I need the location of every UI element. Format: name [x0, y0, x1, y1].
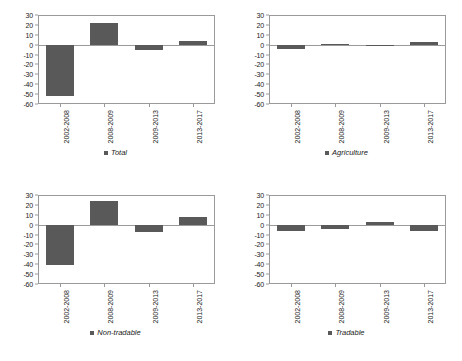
- x-axis-tick-mark: [149, 104, 150, 107]
- y-axis-tick-label: -50: [254, 91, 264, 98]
- y-axis-tick-label: -30: [23, 71, 33, 78]
- y-axis-tick-label: -20: [23, 241, 33, 248]
- plot-area: [269, 15, 446, 104]
- y-axis-tick-label: 0: [260, 41, 264, 48]
- x-axis-tick-mark: [193, 104, 194, 107]
- y-axis-tick-label: 20: [257, 201, 264, 208]
- x-axis-tick-label: 2013-2017: [196, 110, 203, 143]
- y-axis-tick-label: -40: [23, 81, 33, 88]
- legend-entry: Agriculture: [325, 148, 368, 158]
- multi-panel-bar-chart-figure: 3020100-10-20-30-40-50-602002-20082008-2…: [0, 0, 462, 361]
- bar: [277, 225, 305, 231]
- plot-area: [38, 195, 215, 284]
- legend: Agriculture: [231, 148, 462, 158]
- x-axis-tick-label: 2008-2009: [107, 290, 114, 323]
- y-axis-tick-label: 10: [26, 31, 33, 38]
- x-axis-tick-label: 2013-2017: [427, 290, 434, 323]
- x-axis-tick-mark: [60, 104, 61, 107]
- bar: [179, 41, 207, 45]
- plot-frame: [269, 15, 446, 104]
- bar: [410, 42, 438, 45]
- x-axis-tick-label: 2002-2008: [63, 290, 70, 323]
- x-axis: 2002-20082008-20092009-20132013-2017: [38, 284, 215, 330]
- x-axis-tick-label: 2008-2009: [338, 290, 345, 323]
- x-axis-tick-mark: [193, 284, 194, 287]
- y-axis-tick-label: 10: [26, 211, 33, 218]
- x-axis-tick-label: 2009-2013: [152, 290, 159, 323]
- x-axis-tick-mark: [424, 284, 425, 287]
- legend-label: Agriculture: [332, 148, 368, 158]
- x-axis-tick-label: 2013-2017: [196, 290, 203, 323]
- legend: Total: [0, 148, 231, 158]
- chart-panel-3: 3020100-10-20-30-40-50-602002-20082008-2…: [0, 180, 231, 360]
- x-axis-tick-label: 2008-2009: [107, 110, 114, 143]
- bar: [410, 225, 438, 231]
- x-axis-tick-mark: [149, 284, 150, 287]
- y-axis-tick-label: 20: [257, 21, 264, 28]
- y-axis-tick-label: -20: [23, 61, 33, 68]
- x-axis-tick-mark: [291, 284, 292, 287]
- x-axis-tick-label: 2009-2013: [383, 290, 390, 323]
- x-axis: 2002-20082008-20092009-20132013-2017: [269, 104, 446, 150]
- square-marker-icon: [325, 151, 329, 155]
- y-axis-tick-label: -30: [254, 71, 264, 78]
- chart-panel-2: 3020100-10-20-30-40-50-602002-20082008-2…: [231, 0, 462, 180]
- legend: Non-tradable: [0, 328, 231, 338]
- legend-label: Tradable: [335, 328, 364, 338]
- x-axis-tick-label: 2009-2013: [152, 110, 159, 143]
- x-axis-tick-label: 2002-2008: [63, 110, 70, 143]
- legend-entry: Tradable: [328, 328, 364, 338]
- y-axis: 3020100-10-20-30-40-50-60: [231, 15, 269, 104]
- y-axis-tick-label: 10: [257, 211, 264, 218]
- y-axis-tick-label: 30: [26, 12, 33, 19]
- x-axis-tick-label: 2008-2009: [338, 110, 345, 143]
- y-axis-tick-label: 0: [29, 221, 33, 228]
- legend-entry: Total: [104, 148, 127, 158]
- bar: [46, 45, 74, 96]
- x-axis-tick-label: 2002-2008: [294, 290, 301, 323]
- plot-frame: [269, 195, 446, 284]
- bar: [366, 45, 394, 46]
- bar: [90, 201, 118, 225]
- bar: [366, 222, 394, 224]
- chart-panel-4: 3020100-10-20-30-40-50-602002-20082008-2…: [231, 180, 462, 360]
- y-axis-tick-label: -10: [254, 231, 264, 238]
- y-axis-tick-label: 20: [26, 21, 33, 28]
- y-axis-tick-label: 30: [26, 192, 33, 199]
- x-axis-tick-mark: [104, 104, 105, 107]
- x-axis-tick-label: 2009-2013: [383, 110, 390, 143]
- plot-area: [38, 15, 215, 104]
- bar: [135, 45, 163, 50]
- y-axis-tick-label: 0: [29, 41, 33, 48]
- y-axis-tick-label: -50: [23, 91, 33, 98]
- y-axis-tick-label: -20: [254, 241, 264, 248]
- x-axis-tick-mark: [335, 284, 336, 287]
- y-axis-tick-label: -20: [254, 61, 264, 68]
- y-axis-tick-label: -40: [254, 261, 264, 268]
- legend-label: Non-tradable: [97, 328, 140, 338]
- square-marker-icon: [104, 151, 108, 155]
- y-axis-tick-label: -60: [254, 281, 264, 288]
- chart-panel-1: 3020100-10-20-30-40-50-602002-20082008-2…: [0, 0, 231, 180]
- bar: [321, 225, 349, 229]
- plot-area: [269, 195, 446, 284]
- bar: [46, 225, 74, 266]
- square-marker-icon: [328, 331, 332, 335]
- legend-label: Total: [111, 148, 127, 158]
- y-axis-tick-label: 30: [257, 192, 264, 199]
- bar: [90, 23, 118, 45]
- y-axis-tick-label: -10: [23, 51, 33, 58]
- y-axis-tick-label: -40: [23, 261, 33, 268]
- y-axis-tick-label: 20: [26, 201, 33, 208]
- y-axis-tick-label: -50: [254, 271, 264, 278]
- y-axis-tick-label: -30: [23, 251, 33, 258]
- y-axis-tick-label: -50: [23, 271, 33, 278]
- x-axis: 2002-20082008-20092009-20132013-2017: [269, 284, 446, 330]
- y-axis-tick-label: 0: [260, 221, 264, 228]
- y-axis-tick-label: -30: [254, 251, 264, 258]
- y-axis-tick-label: -60: [23, 101, 33, 108]
- legend-entry: Non-tradable: [90, 328, 140, 338]
- y-axis-tick-label: 30: [257, 12, 264, 19]
- x-axis-tick-mark: [104, 284, 105, 287]
- y-axis-tick-label: 10: [257, 31, 264, 38]
